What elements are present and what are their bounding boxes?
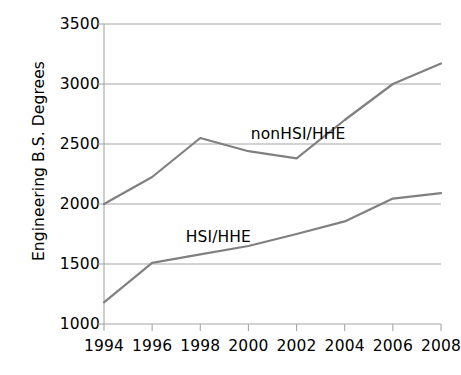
series-label-hsi-hhe: HSI/HHE [186, 228, 251, 246]
series-label-nonhsi-hhe: nonHSI/HHE [251, 125, 346, 143]
line-chart: Engineering B.S. Degrees 100015002000250… [0, 0, 461, 375]
x-axis-tick-labels: 19941996199820002002200420062008 [0, 0, 461, 375]
x-tick-label: 2008 [411, 337, 461, 355]
